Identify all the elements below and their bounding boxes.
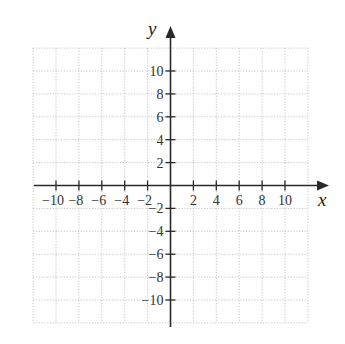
y-tick-label: −4 — [149, 224, 164, 239]
x-tick-label: 4 — [213, 193, 220, 208]
x-tick-label: −6 — [91, 193, 106, 208]
y-tick-label: −8 — [149, 270, 164, 285]
x-axis-label: x — [317, 189, 327, 210]
x-tick-label: −10 — [42, 193, 64, 208]
x-tick-label: −8 — [68, 193, 83, 208]
y-tick-label: −10 — [142, 293, 164, 308]
y-tick-label: 4 — [157, 133, 164, 148]
x-tick-label: 10 — [278, 193, 292, 208]
y-axis-arrow-icon — [166, 26, 176, 38]
x-tick-label: 6 — [236, 193, 243, 208]
y-tick-label: 8 — [157, 87, 164, 102]
x-tick-label: −4 — [114, 193, 129, 208]
y-tick-label: −2 — [149, 201, 164, 216]
x-tick-label: 8 — [259, 193, 266, 208]
y-tick-label: 6 — [157, 110, 164, 125]
y-tick-label: 10 — [150, 64, 164, 79]
y-axis-label: y — [146, 18, 157, 39]
y-tick-label: 2 — [157, 156, 164, 171]
x-tick-label: 2 — [190, 193, 197, 208]
coordinate-plane: −10−8−6−4−2246810108642−2−4−6−8−10 y x — [0, 0, 345, 344]
y-tick-label: −6 — [149, 247, 164, 262]
